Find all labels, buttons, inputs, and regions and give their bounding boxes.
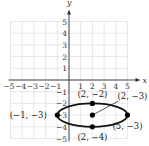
data-point xyxy=(90,113,95,118)
point-label: (2, −4) xyxy=(77,132,107,142)
y-tick-label: −5 xyxy=(56,135,67,144)
y-axis-arrow-icon xyxy=(67,10,71,15)
data-point xyxy=(90,101,95,106)
x-tick-label: −3 xyxy=(27,82,38,91)
y-tick-label: 3 xyxy=(62,41,67,50)
point-label: (2, −3) xyxy=(117,91,147,101)
y-axis-label: y xyxy=(66,0,72,7)
data-point xyxy=(90,124,95,129)
ellipse-graph: xy −5−4−3−2−112345 −5−4−3−2−112345 (−1, … xyxy=(0,0,149,146)
y-tick-label: −4 xyxy=(56,123,67,132)
x-tick-label: 5 xyxy=(125,82,130,91)
x-tick-label: −5 xyxy=(3,82,14,91)
y-tick-label: 4 xyxy=(62,29,67,38)
point-label: (5, −3) xyxy=(113,121,143,131)
x-tick-label: 4 xyxy=(113,82,118,91)
data-point xyxy=(125,113,130,118)
data-point xyxy=(55,113,60,118)
y-tick-label: 5 xyxy=(62,18,67,27)
x-axis-arrow-icon xyxy=(136,78,141,82)
x-tick-label: −4 xyxy=(15,82,26,91)
y-tick-label: −1 xyxy=(56,88,67,97)
x-tick-label: −2 xyxy=(39,82,50,91)
point-label: (2, −2) xyxy=(77,89,107,99)
x-axis-label: x xyxy=(143,76,148,85)
point-label: (−1, −3) xyxy=(10,110,47,120)
y-tick-label: 1 xyxy=(62,64,67,73)
y-tick-labels: −5−4−3−2−112345 xyxy=(56,18,67,144)
y-tick-label: 2 xyxy=(62,53,67,62)
